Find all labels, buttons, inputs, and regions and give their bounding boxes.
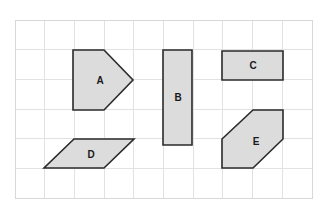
figure-container: ABCDE: [0, 0, 323, 222]
shape-label-d: D: [87, 149, 94, 160]
shape-label-a: A: [96, 75, 103, 86]
shape-c: C: [222, 51, 283, 80]
geometry-figure: ABCDE: [0, 0, 323, 222]
shape-label-c: C: [249, 60, 256, 71]
shape-label-e: E: [253, 136, 260, 147]
shape-b: B: [163, 50, 192, 145]
shape-label-b: B: [174, 92, 181, 103]
